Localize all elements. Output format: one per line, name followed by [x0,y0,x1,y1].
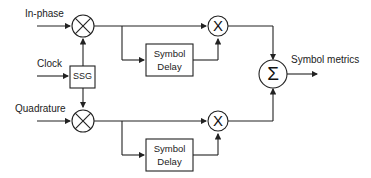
symbol-delay-bottom-line2: Delay [146,155,193,168]
input-label-quadrature: Quadrature [15,103,66,114]
output-label: Symbol metrics [291,54,359,65]
ssg-block: SSG [70,70,95,83]
symbol-delay-bottom-line1: Symbol [146,142,193,155]
symbol-delay-top: Symbol Delay [146,47,193,73]
input-label-clock: Clock [37,58,62,69]
multiplier-top-icon: X [208,17,228,35]
input-label-in-phase: In-phase [25,8,64,19]
multiplier-bottom-icon: X [208,112,228,130]
symbol-delay-top-line2: Delay [146,60,193,73]
summation-icon: Σ [259,62,287,86]
symbol-delay-top-line1: Symbol [146,47,193,60]
symbol-delay-bottom: Symbol Delay [146,142,193,168]
